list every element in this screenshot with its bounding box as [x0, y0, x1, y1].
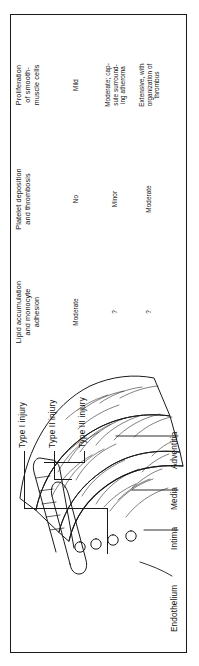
injury-leader-type-ii — [54, 451, 55, 480]
injury-leader-type-i-drop — [24, 508, 108, 509]
anatomy-label-endothelium: Endothelium — [170, 585, 179, 632]
column-header-platelet: Platelet deposition and thrombosis — [14, 147, 32, 251]
table-cell-platelet-type-iii: Moderate — [145, 147, 153, 251]
anatomy-label-media: Media — [170, 487, 179, 510]
column-header-lipid: Lipid accumulation and monocyte adhesion — [14, 258, 42, 366]
injury-leader-type-i — [24, 451, 25, 509]
table-cell-lipid-type-ii: ? — [111, 258, 119, 366]
atheroma-plaque — [51, 482, 86, 574]
foam-cell — [126, 531, 136, 541]
injury-label-type-i: Type I injury — [18, 402, 27, 448]
foam-cell — [108, 535, 118, 545]
injury-leader-type-i-foot — [107, 508, 108, 554]
table-cell-proliferation-type-i: Mild — [72, 31, 80, 139]
figure-stage: Endothelium Intima Media Adventitia Type… — [0, 0, 199, 666]
table-cell-platelet-type-ii: Minor — [111, 147, 119, 251]
anatomy-label-intima: Intima — [170, 527, 179, 550]
column-header-proliferation: Proliferation of smooth- muscle cells — [14, 31, 42, 139]
thrombus-hatching — [36, 476, 64, 530]
table-cell-proliferation-type-ii: Moderate; cap- sule surround- ing athero… — [104, 31, 127, 139]
endothelium-leader — [140, 562, 172, 576]
table-column-proliferation: Proliferation of smooth- muscle cells Mi… — [14, 31, 184, 139]
table-cell-proliferation-type-iii: Extensive, with organization of thrombus — [138, 31, 161, 139]
table-cell-lipid-type-i: Moderate — [72, 258, 80, 366]
table-column-lipid: Lipid accumulation and monocyte adhesion… — [14, 258, 184, 366]
table-cell-platelet-type-i: No — [72, 147, 80, 251]
figure-root: Endothelium Intima Media Adventitia Type… — [0, 0, 199, 666]
vessel-cross-section-diagram — [12, 363, 188, 648]
injury-leader-type-iii — [84, 451, 85, 463]
table-cell-lipid-type-iii: ? — [145, 258, 153, 366]
characteristics-table: Lipid accumulation and monocyte adhesion… — [14, 21, 184, 366]
injury-leader-type-iii-drop — [44, 462, 84, 463]
injury-label-type-iii: Type III injury — [78, 397, 87, 448]
foam-cell — [91, 539, 101, 549]
media-layer — [36, 415, 180, 532]
anatomy-label-adventitia: Adventitia — [170, 432, 179, 469]
table-column-platelet: Platelet deposition and thrombosis No Mi… — [14, 147, 184, 251]
injury-leader-type-ii-drop — [54, 479, 72, 480]
injury-label-type-ii: Type II injury — [48, 399, 57, 448]
